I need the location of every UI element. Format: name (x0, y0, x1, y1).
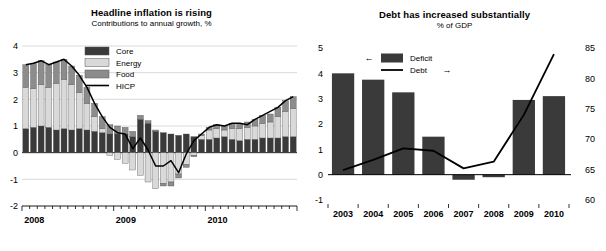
legend-arrow-right: → (443, 65, 452, 75)
bar-segment-core (199, 139, 205, 152)
debt-chart-plot: 543210-185807570656020032004200520062007… (303, 0, 606, 251)
bar-segment-food (30, 63, 36, 88)
bar-segment-food (23, 65, 29, 88)
bar-segment-core (260, 138, 266, 153)
legend-swatch-deficit (381, 54, 403, 63)
bar-segment-energy (53, 83, 59, 130)
bar-segment-energy (76, 93, 82, 129)
y-axis-tick-label: 3 (13, 68, 18, 78)
bar-segment-food (46, 65, 52, 88)
bar-segment-energy (244, 127, 250, 139)
legend-label-deficit: Deficit (410, 54, 433, 63)
y-axis-tick-label: 1 (13, 121, 18, 131)
left-axis-tick-label: 2 (318, 119, 323, 129)
bar-segment-energy (99, 129, 105, 133)
bar-segment-core (30, 127, 36, 152)
bar-segment-core (23, 129, 29, 153)
bar-segment-core (237, 141, 243, 153)
bar-segment-core (283, 137, 289, 153)
x-axis-year-label: 2008 (24, 215, 44, 225)
bar-segment-energy (30, 89, 36, 128)
debt-chart-panel: Debt has increased substantially % of GD… (303, 0, 606, 251)
bar-segment-energy (38, 85, 44, 126)
right-axis-tick-label: 60 (585, 195, 595, 205)
bar-segment-core (153, 131, 159, 152)
bar-segment-core (137, 119, 143, 152)
right-axis-tick-label: 65 (585, 165, 595, 175)
bar-segment-food (183, 165, 189, 168)
right-axis-tick-label: 75 (585, 104, 595, 114)
x-axis-year-label: 2008 (484, 209, 504, 219)
bar-segment-core (53, 130, 59, 153)
x-axis-year-label: 2003 (333, 209, 353, 219)
legend-label-core: Core (116, 47, 134, 56)
bar-segment-energy (252, 126, 258, 139)
bar-segment-core (176, 135, 182, 152)
bar-segment-energy (260, 123, 266, 138)
bar-segment-energy (107, 153, 113, 156)
legend-label-debt: Debt (410, 66, 428, 75)
bar-segment-food (160, 183, 166, 186)
left-axis-tick-label: 1 (318, 145, 323, 155)
bar-segment-food (145, 121, 151, 124)
bar-segment-energy (137, 153, 143, 176)
bar-segment-energy (237, 129, 243, 141)
bar-segment-energy (214, 129, 220, 138)
bar-segment-energy (229, 129, 235, 140)
bar-segment-core (267, 138, 273, 153)
bar-segment-food (267, 114, 273, 122)
bar-segment-energy (206, 130, 212, 139)
bar-deficit (332, 73, 354, 174)
x-axis-year-label: 2004 (363, 209, 383, 219)
left-axis-tick-label: 0 (318, 170, 323, 180)
legend-arrow-left: ← (365, 53, 374, 63)
bar-segment-energy (69, 85, 75, 130)
left-axis-tick-label: 3 (318, 94, 323, 104)
bar-segment-core (206, 139, 212, 152)
y-axis-tick-label: 0 (13, 148, 18, 158)
bar-segment-core (69, 130, 75, 153)
right-axis-tick-label: 70 (585, 134, 595, 144)
left-axis-tick-label: -1 (315, 195, 323, 205)
bar-segment-energy (46, 87, 52, 127)
bar-segment-energy (283, 111, 289, 136)
bar-segment-energy (267, 122, 273, 138)
y-axis-tick-label: -2 (10, 201, 18, 211)
bar-segment-energy (130, 153, 136, 170)
x-axis-year-label: 2010 (544, 209, 564, 219)
bar-segment-core (115, 134, 121, 153)
legend-label-hicp: HICP (116, 82, 135, 91)
bar-segment-food (92, 103, 98, 116)
legend-swatch-core (85, 47, 109, 55)
legend-swatch-energy (85, 59, 109, 67)
legend-label-energy: Energy (116, 59, 141, 68)
bar-deficit (452, 175, 474, 180)
bar-segment-core (61, 129, 67, 153)
bar-segment-food (153, 130, 159, 131)
bar-segment-energy (23, 87, 29, 128)
bar-segment-food (191, 155, 197, 156)
bar-segment-core (92, 131, 98, 152)
x-axis-year-label: 2007 (454, 209, 474, 219)
bar-segment-energy (92, 117, 98, 132)
bar-segment-core (229, 139, 235, 152)
bar-segment-energy (122, 153, 128, 164)
bar-deficit (513, 100, 535, 175)
bar-segment-energy (145, 153, 151, 182)
bar-segment-energy (191, 153, 197, 156)
bar-deficit (543, 96, 565, 175)
bar-segment-core (168, 134, 174, 153)
y-axis-tick-label: -1 (10, 175, 18, 185)
bar-segment-energy (84, 103, 90, 130)
bar-segment-energy (168, 153, 174, 182)
bar-segment-core (84, 130, 90, 153)
bar-segment-energy (160, 153, 166, 184)
bar-segment-core (221, 137, 227, 153)
bar-segment-core (46, 127, 52, 152)
bar-segment-core (38, 126, 44, 153)
bar-segment-energy (153, 153, 159, 189)
bar-segment-food (84, 87, 90, 103)
inflation-chart-panel: Headline inflation is rising Contributio… (0, 0, 303, 251)
bar-segment-core (275, 138, 281, 153)
bar-segment-energy (221, 130, 227, 137)
